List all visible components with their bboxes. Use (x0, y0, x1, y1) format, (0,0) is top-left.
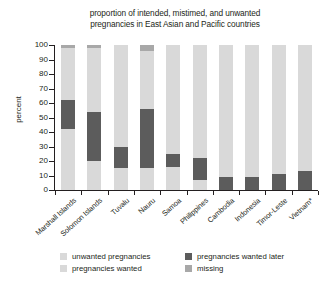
x-tick-8 (265, 191, 266, 195)
legend-label-pregnancies-wanted-later: pregnancies wanted later (197, 252, 284, 261)
x-tick-2 (108, 191, 109, 195)
legend-swatch-pregnancies-wanted (60, 265, 67, 272)
bar-segment-pregnancies-wanted (166, 167, 180, 190)
legend-item-pregnancies-wanted-later: pregnancies wanted later (185, 252, 284, 261)
chart-legend: unwanted pregnancies pregnancies wanted … (60, 252, 326, 276)
bar-segment-missing (87, 45, 101, 48)
bar-segment-pregnancies-wanted-later (193, 158, 207, 180)
legend-swatch-missing (185, 265, 192, 272)
bar-samoa (166, 45, 180, 190)
bar-segment-unwanted-pregnancies (298, 171, 312, 190)
bar-nauru (140, 45, 154, 190)
y-tick-50 (49, 118, 54, 119)
y-tick-label-40: 40 (2, 127, 48, 136)
y-tick-100 (49, 45, 54, 46)
bar-segment-pregnancies-wanted-later (114, 147, 128, 169)
y-tick-label-20: 20 (2, 156, 48, 165)
y-tick-label-50: 50 (2, 113, 48, 122)
legend-swatch-pregnancies-wanted-later (185, 253, 192, 260)
bar-segment-pregnancies-wanted (61, 129, 75, 190)
y-axis-ticks: 0102030405060708090100 (0, 0, 48, 291)
legend-item-pregnancies-wanted: pregnancies wanted (60, 264, 185, 273)
chart-figure: proportion of intended, mistimed, and un… (0, 0, 328, 291)
bar-segment-missing (61, 45, 75, 48)
bar-cambodia (219, 45, 233, 190)
bar-segment-pregnancies-wanted-later (87, 112, 101, 161)
legend-item-missing: missing (185, 264, 223, 273)
bar-segment-missing (140, 45, 154, 51)
x-label-philippines: Philippines (178, 196, 210, 226)
y-tick-0 (49, 190, 54, 191)
legend-swatch-unwanted-pregnancies (60, 253, 67, 260)
x-tick-3 (134, 191, 135, 195)
bar-segment-pregnancies-wanted (219, 45, 233, 177)
x-tick-6 (213, 191, 214, 195)
bar-segment-pregnancies-wanted (140, 51, 154, 109)
bar-segment-pregnancies-wanted-later (61, 100, 75, 129)
chart-title-line-1: proportion of intended, mistimed, and un… (30, 8, 320, 19)
y-tick-label-80: 80 (2, 69, 48, 78)
y-tick-label-90: 90 (2, 55, 48, 64)
bar-segment-pregnancies-wanted (61, 48, 75, 100)
x-label-samoa: Samoa (160, 196, 183, 218)
y-tick-label-70: 70 (2, 84, 48, 93)
x-tick-5 (187, 191, 188, 195)
bar-segment-pregnancies-wanted (140, 168, 154, 190)
legend-label-missing: missing (197, 264, 223, 273)
bar-philippines (193, 45, 207, 190)
y-tick-90 (49, 60, 54, 61)
x-tick-0 (55, 191, 56, 195)
y-tick-10 (49, 176, 54, 177)
y-tick-label-10: 10 (2, 171, 48, 180)
y-tick-label-0: 0 (2, 185, 48, 194)
bar-tuvalu (114, 45, 128, 190)
bar-segment-pregnancies-wanted (166, 45, 180, 154)
x-tick-4 (160, 191, 161, 195)
legend-row-1: unwanted pregnancies pregnancies wanted … (60, 252, 326, 261)
bar-segment-unwanted-pregnancies (219, 177, 233, 190)
y-tick-20 (49, 161, 54, 162)
bar-timor-leste (272, 45, 286, 190)
y-tick-70 (49, 89, 54, 90)
y-tick-label-100: 100 (2, 40, 48, 49)
y-tick-60 (49, 103, 54, 104)
y-tick-40 (49, 132, 54, 133)
x-label-vietnam: Vietnam* (287, 196, 315, 222)
y-tick-label-60: 60 (2, 98, 48, 107)
bar-solomon-islands (87, 45, 101, 190)
bar-segment-pregnancies-wanted (87, 48, 101, 112)
bar-segment-pregnancies-wanted (87, 161, 101, 190)
y-tick-30 (49, 147, 54, 148)
bar-vietnam (298, 45, 312, 190)
legend-item-unwanted-pregnancies: unwanted pregnancies (60, 252, 185, 261)
bar-segment-pregnancies-wanted (245, 45, 259, 177)
legend-row-2: pregnancies wanted missing (60, 264, 326, 273)
x-label-tuvalu: Tuvalu (109, 196, 131, 217)
bar-segment-unwanted-pregnancies (272, 174, 286, 190)
plot-area (55, 45, 318, 190)
x-tick-end (318, 191, 319, 195)
y-tick-label-30: 30 (2, 142, 48, 151)
bar-segment-pregnancies-wanted (272, 45, 286, 174)
bar-segment-pregnancies-wanted (298, 45, 312, 171)
bar-segment-pregnancies-wanted (114, 45, 128, 147)
legend-label-unwanted-pregnancies: unwanted pregnancies (72, 252, 150, 261)
x-tick-7 (239, 191, 240, 195)
bar-segment-pregnancies-wanted (193, 45, 207, 158)
bar-segment-pregnancies-wanted (114, 168, 128, 190)
x-label-nauru: Nauru (136, 196, 157, 216)
bar-segment-pregnancies-wanted-later (140, 109, 154, 168)
bar-segment-unwanted-pregnancies (245, 177, 259, 190)
legend-label-pregnancies-wanted: pregnancies wanted (72, 264, 142, 273)
chart-title: proportion of intended, mistimed, and un… (30, 8, 320, 30)
chart-title-line-2: pregnancies in East Asian and Pacific co… (30, 19, 320, 30)
y-tick-80 (49, 74, 54, 75)
bar-marshall-islands (61, 45, 75, 190)
bar-segment-pregnancies-wanted (193, 180, 207, 190)
x-tick-9 (292, 191, 293, 195)
x-tick-1 (81, 191, 82, 195)
bar-segment-pregnancies-wanted-later (166, 154, 180, 167)
bar-indonesia (245, 45, 259, 190)
x-label-cambodia: Cambodia (205, 196, 235, 225)
